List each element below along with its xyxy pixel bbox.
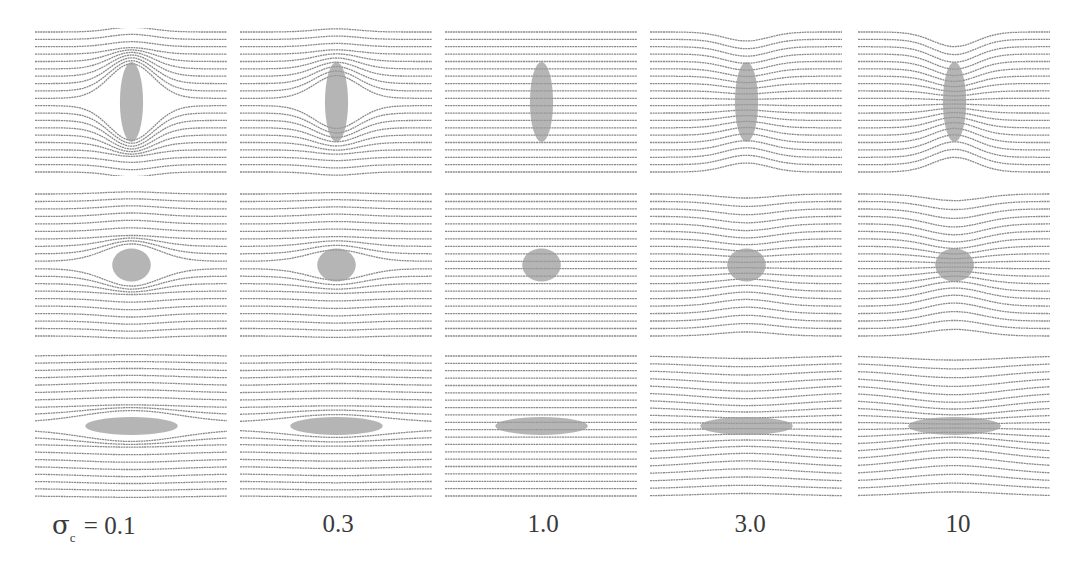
streamline [858,394,1050,402]
streamline [858,492,1050,496]
streamline [650,440,842,444]
inclusion-shape [700,417,793,435]
streamline [858,457,1050,465]
streamline [650,469,842,473]
streamline [858,295,1050,306]
panel-vertical-ellipse-sigma-1.0 [445,28,638,176]
streamline [650,224,842,231]
streamline [35,383,227,386]
streamline [240,36,432,39]
streamline [35,467,227,470]
streamline [35,213,227,216]
panel-circle-sigma-0.1 [35,190,228,340]
streamline [35,474,227,476]
streamline [858,224,1050,235]
column-label-value: 0.1 [104,512,135,539]
streamline [35,489,227,491]
streamline [650,209,842,215]
streamline [650,231,842,238]
column-label-sigma-0.3: 0.3 [268,510,408,538]
streamline [35,150,227,156]
streamline [240,306,432,308]
equals-sign: = [78,512,105,539]
streamline [35,42,227,47]
streamline [240,329,432,331]
streamline [35,48,227,54]
streamline-figure [0,0,1078,569]
streamline [240,200,432,202]
streamline [650,292,842,299]
streamline [35,362,227,364]
streamline [650,299,842,306]
streamline [240,336,432,337]
panel-horizontal-ellipse-sigma-10 [858,352,1051,500]
column-label-value: 10 [946,510,971,537]
streamline [35,355,227,356]
streamline [858,231,1050,242]
streamline [650,446,842,451]
streamline [35,460,227,463]
streamline [240,43,432,46]
panel-horizontal-ellipse-sigma-1.0 [445,352,638,500]
inclusion-shape [112,249,151,282]
streamline [650,386,842,391]
streamline [240,229,432,231]
inclusion-shape [735,62,758,142]
streamline [650,494,842,496]
streamline [35,496,227,497]
panel-circle-sigma-10 [858,190,1051,340]
streamline [650,216,842,222]
streamline [240,362,432,363]
streamline [240,452,432,454]
streamline [35,369,227,371]
streamline [858,474,1050,480]
streamline [35,228,227,232]
streamline [240,237,432,239]
streamline [650,364,842,367]
streamline [240,299,432,301]
column-label-sigma-0.1: σc = 0.1 [52,510,172,540]
column-label-sigma-1.0: 1.0 [473,510,613,538]
streamline [650,285,842,291]
streamline [650,324,842,329]
streamline [35,329,227,332]
streamline [858,288,1050,299]
column-label-sigma-10: 10 [888,510,1028,538]
panel-circle-sigma-1.0 [445,190,638,340]
streamline [240,369,432,370]
streamline [35,192,227,194]
panel-horizontal-ellipse-sigma-3.0 [650,352,843,500]
streamline [240,489,432,490]
streamline [35,157,227,162]
streamline [35,397,227,400]
streamline [858,202,1050,210]
sigma-subscript: c [70,530,76,545]
inclusion-shape [317,249,356,282]
panel-vertical-ellipse-sigma-0.3 [240,28,433,176]
streamline [35,284,227,292]
streamline [35,452,227,455]
streamline [858,321,1050,329]
streamline [858,357,1050,361]
streamline [858,329,1050,336]
panel-circle-sigma-0.3 [240,190,433,340]
streamline [858,450,1050,458]
streamline [35,306,227,310]
panel-horizontal-ellipse-sigma-0.1 [35,352,228,500]
streamline [240,321,432,323]
streamline [650,408,842,412]
streamline [240,193,432,194]
streamline [35,375,227,377]
panel-horizontal-ellipse-sigma-0.3 [240,352,433,500]
streamline [35,390,227,393]
panel-vertical-ellipse-sigma-10 [858,28,1051,176]
streamline [240,474,432,476]
streamline [240,165,432,168]
inclusion-shape [325,62,348,142]
panel-circle-sigma-3.0 [650,190,843,340]
inclusion-shape [120,62,143,142]
streamline [650,379,842,383]
streamline [858,483,1050,488]
streamline [35,28,227,32]
streamline [650,202,842,207]
